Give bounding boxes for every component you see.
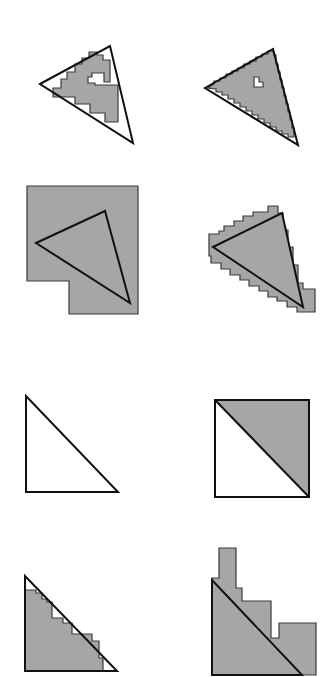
panel-row2-left xyxy=(27,186,138,314)
panel-row2-right xyxy=(209,206,315,312)
panel-row4-right xyxy=(212,548,316,675)
triangle-rasterization-figure xyxy=(0,0,326,677)
panel-row1-left xyxy=(40,46,133,143)
outer-staircase-approximation xyxy=(212,548,316,675)
triangle-outline xyxy=(26,396,118,492)
panel-row3-right xyxy=(215,400,309,497)
inner-cell-approximation xyxy=(53,52,118,122)
panel-row4-left xyxy=(25,576,117,671)
inner-cell-approximation xyxy=(208,51,294,137)
panel-row1-right xyxy=(205,49,298,145)
coarse-cell-region xyxy=(27,186,138,314)
panel-row3-left xyxy=(26,396,118,492)
inner-staircase-approximation xyxy=(25,590,103,671)
